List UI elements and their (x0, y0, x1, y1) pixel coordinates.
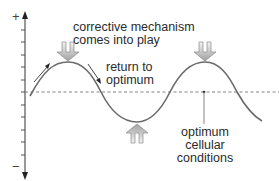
axis-plus-label: + (12, 10, 20, 23)
corrective-mechanism-label: corrective mechanism comes into play (73, 21, 195, 47)
optimum-conditions-label: optimum cellular conditions (172, 126, 238, 165)
return-to-optimum-label: return to optimum (106, 61, 154, 87)
axis-down-arrow-icon (22, 172, 28, 180)
corrective-line-2: comes into play (73, 34, 195, 47)
axis-ticks (21, 30, 25, 155)
y-axis (21, 11, 28, 180)
axis-up-arrow-icon (22, 11, 28, 19)
return-line-2: optimum (106, 74, 154, 87)
axis-minus-label: − (12, 160, 20, 173)
optimum-line-3: conditions (172, 152, 238, 165)
up-arrow-icon (126, 124, 148, 143)
rising-arrow-icon (34, 63, 50, 82)
down-arrow-icon (194, 42, 216, 61)
